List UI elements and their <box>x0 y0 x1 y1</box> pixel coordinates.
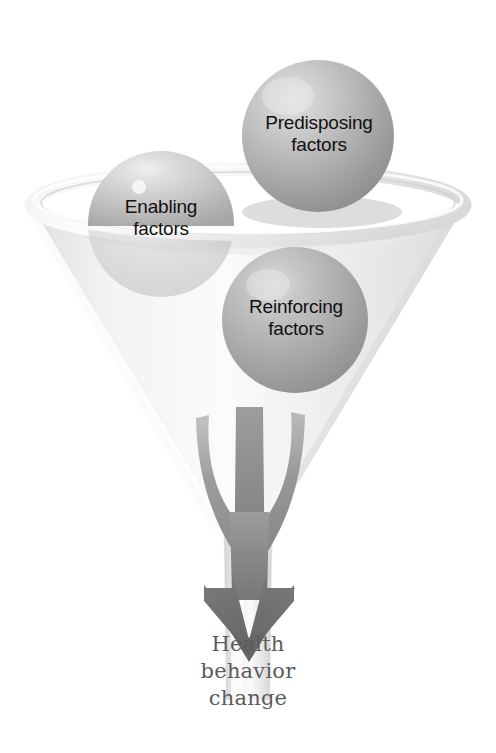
sphere-enabling <box>88 151 234 297</box>
sphere-predisposing-specular <box>262 77 314 115</box>
sphere-predisposing <box>242 60 402 228</box>
sphere-reinforcing-specular <box>246 269 290 301</box>
sphere-enabling-upper <box>88 151 234 226</box>
outcome-label: Health behavior change <box>148 631 348 712</box>
outcome-label-line3: change <box>148 685 348 712</box>
sphere-reinforcing <box>222 247 368 393</box>
sphere-enabling-specular <box>132 180 146 194</box>
outcome-label-line1: Health <box>148 631 348 658</box>
funnel-diagram: Predisposing factors Enabling factors Re… <box>0 0 496 753</box>
outcome-label-line2: behavior <box>148 658 348 685</box>
